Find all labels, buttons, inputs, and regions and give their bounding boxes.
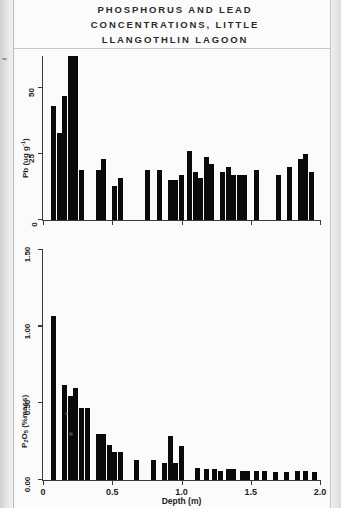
bar	[198, 178, 203, 220]
bar	[101, 159, 106, 220]
bar	[112, 186, 117, 220]
bar	[220, 172, 225, 220]
bar	[179, 446, 184, 480]
bar	[204, 157, 209, 220]
x-tick	[320, 480, 321, 485]
caption-line-1: PHOSPHORUS AND LEAD	[40, 2, 310, 17]
bar	[168, 436, 173, 480]
caption-divider	[14, 48, 330, 49]
chart-pb-panel: Pb (ug g-1) 02550	[0, 50, 341, 235]
bar	[51, 316, 56, 480]
x-tick	[251, 220, 252, 225]
bar	[57, 133, 62, 220]
plot-area-p2o5: 0.000.501.001.50 00.51.01.52.0	[43, 250, 320, 480]
caption-line-3: LLANGOTHLIN LAGOON	[40, 32, 310, 47]
x-tick	[43, 480, 44, 485]
bar	[96, 434, 101, 480]
x-tick	[251, 480, 252, 485]
y-tick	[38, 325, 43, 326]
bar	[168, 180, 173, 220]
bar	[312, 472, 317, 480]
bar	[309, 172, 314, 220]
bar	[226, 167, 231, 220]
bar	[209, 164, 214, 220]
plot-area-pb: 02550	[43, 56, 320, 220]
figure-caption: PHOSPHORUS AND LEAD CONCENTRATIONS, LITT…	[40, 2, 310, 47]
y-tick	[38, 87, 43, 88]
bar	[298, 159, 303, 220]
chart-p2o5-panel: P2O5 (%mass) 0.000.501.001.50 00.51.01.5…	[0, 240, 341, 508]
bar	[107, 445, 112, 480]
x-tick	[320, 220, 321, 225]
x-axis-title: Depth (m)	[43, 496, 320, 506]
y-axis-line-p2o5	[42, 250, 43, 480]
x-tick	[112, 220, 113, 225]
y-tick-label: 1.00	[20, 327, 36, 336]
bar	[273, 472, 278, 480]
x-tick	[43, 220, 44, 225]
bar	[118, 178, 123, 220]
y-tick-label: 25	[27, 154, 36, 163]
caption-line-2: CONCENTRATIONS, LITTLE	[40, 17, 310, 32]
bar	[204, 469, 209, 480]
bar	[79, 170, 84, 220]
bar	[85, 408, 90, 480]
bar	[295, 471, 300, 480]
bar	[237, 175, 242, 220]
bar	[134, 460, 139, 480]
y-tick	[38, 249, 43, 250]
bar	[231, 469, 236, 480]
bar	[262, 471, 267, 480]
bar	[287, 167, 292, 220]
figure-page: PHOSPHORUS AND LEAD CONCENTRATIONS, LITT…	[0, 0, 341, 508]
bar	[245, 471, 250, 480]
bar	[231, 175, 236, 220]
bar	[242, 175, 247, 220]
x-tick	[112, 480, 113, 485]
y-tick	[38, 402, 43, 403]
bar	[303, 154, 308, 220]
bar	[284, 472, 289, 480]
bar	[179, 175, 184, 220]
bar	[218, 471, 223, 480]
bar	[162, 463, 167, 480]
bar	[254, 170, 259, 220]
bar	[68, 396, 73, 480]
x-tick	[182, 220, 183, 225]
y-axis-line-pb	[42, 56, 43, 220]
bar	[62, 385, 67, 480]
bar	[51, 106, 56, 220]
y-tick-label: 0	[32, 220, 36, 229]
bar	[173, 180, 178, 220]
bar	[303, 471, 308, 480]
scan-artifact	[65, 412, 68, 415]
bar	[226, 469, 231, 480]
bar	[187, 151, 192, 220]
bar	[73, 56, 78, 220]
bar	[173, 463, 178, 480]
bar	[73, 388, 78, 480]
bar	[62, 96, 67, 220]
y-tick-label: 1.50	[20, 250, 36, 259]
bar	[193, 172, 198, 220]
y-tick-label: 0.50	[20, 403, 36, 412]
bar	[112, 452, 117, 480]
bar	[195, 468, 200, 480]
bar	[145, 170, 150, 220]
y-tick-label: 0.00	[20, 480, 36, 489]
bar	[68, 56, 73, 220]
bar	[96, 170, 101, 220]
bar	[240, 471, 245, 480]
bar	[79, 408, 84, 480]
scan-artifact	[69, 432, 73, 436]
bar	[157, 170, 162, 220]
bar	[212, 469, 217, 480]
bar	[118, 452, 123, 480]
x-tick	[182, 480, 183, 485]
bar	[151, 460, 156, 480]
y-tick-label: 50	[27, 88, 36, 97]
bar	[276, 175, 281, 220]
bar	[101, 434, 106, 480]
y-tick	[38, 153, 43, 154]
bar	[254, 471, 259, 480]
